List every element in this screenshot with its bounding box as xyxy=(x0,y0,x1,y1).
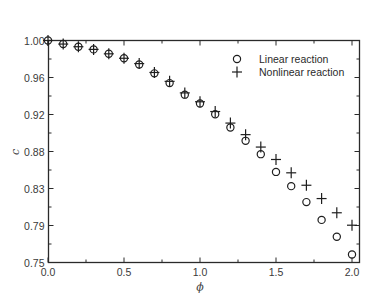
plus-marker xyxy=(241,129,251,140)
chart: 1.000.960.920.880.830.790.75 0.00.51.01.… xyxy=(0,0,376,305)
y-tick-label: 0.79 xyxy=(24,220,45,232)
plus-marker xyxy=(73,41,83,52)
plus-marker xyxy=(301,180,311,191)
circle-legend-icon xyxy=(233,55,240,62)
y-tick-label: 0.96 xyxy=(24,72,45,84)
plus-marker xyxy=(104,48,114,59)
x-tick-label: 0.5 xyxy=(117,266,132,278)
x-tick-label: 1.5 xyxy=(269,266,284,278)
circle-marker xyxy=(272,168,279,175)
plus-marker xyxy=(317,193,327,204)
plus-marker xyxy=(286,167,296,178)
plus-marker xyxy=(89,44,99,55)
x-tick-label: 2.0 xyxy=(345,266,360,278)
circle-marker xyxy=(348,251,355,258)
y-tick-label: 0.83 xyxy=(24,183,45,195)
y-tick-label: 1.00 xyxy=(24,35,45,47)
plus-marker xyxy=(119,53,129,64)
x-tick-label: 0.0 xyxy=(41,266,56,278)
y-tick-label: 0.88 xyxy=(24,146,45,158)
plus-marker xyxy=(347,220,357,231)
x-axis-title: ϕ xyxy=(196,281,204,294)
legend: Linear reactionNonlinear reaction xyxy=(232,53,344,78)
y-axis-title: c xyxy=(9,149,22,155)
circle-marker xyxy=(288,183,295,190)
plus-marker xyxy=(332,207,342,218)
legend-item: Nonlinear reaction xyxy=(232,66,344,78)
legend-item: Linear reaction xyxy=(233,53,328,65)
x-tick-label: 1.0 xyxy=(193,266,208,278)
plus-legend-icon xyxy=(232,67,242,78)
plus-marker xyxy=(43,35,53,46)
legend-label: Nonlinear reaction xyxy=(259,66,344,78)
plus-marker xyxy=(256,142,266,153)
plus-marker xyxy=(271,154,281,165)
y-tick-label: 0.92 xyxy=(24,109,45,121)
plus-marker xyxy=(149,67,159,78)
legend-label: Linear reaction xyxy=(259,53,329,65)
plus-marker xyxy=(134,58,144,69)
circle-marker xyxy=(303,199,310,206)
circle-marker xyxy=(333,233,340,240)
circle-marker xyxy=(318,216,325,223)
